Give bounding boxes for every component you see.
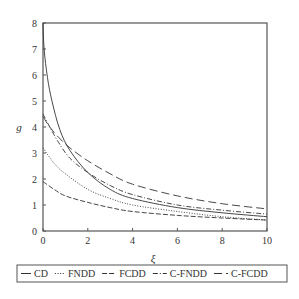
series-c-fcdd (43, 117, 267, 209)
x-tick-label: 0 (41, 235, 46, 246)
series-layer (43, 23, 267, 220)
x-tick-label: 10 (262, 235, 272, 246)
y-tick-label: 0 (32, 226, 37, 237)
legend-label: C-FNDD (170, 268, 207, 279)
series-cd (43, 23, 267, 217)
y-tick-label: 1 (32, 200, 37, 211)
legend-label: C-FCDD (231, 268, 268, 279)
series-fndd (43, 148, 267, 220)
chart-canvas: 0246810 012345678 ξ g CDFNDDFCDDC-FNDDC-… (0, 0, 299, 299)
y-tick-label: 7 (32, 44, 37, 55)
x-tick-label: 8 (220, 235, 225, 246)
legend-label: FNDD (68, 268, 95, 279)
legend-label: FCDD (119, 268, 146, 279)
x-tick-label: 4 (130, 235, 135, 246)
y-tick-label: 5 (32, 96, 37, 107)
legend: CDFNDDFCDDC-FNDDC-FCDD (17, 265, 287, 282)
x-tick-label: 2 (85, 235, 90, 246)
line-chart: 0246810 012345678 ξ g CDFNDDFCDDC-FNDDC-… (0, 0, 299, 299)
x-tick-label: 6 (175, 235, 180, 246)
y-tick-label: 6 (32, 70, 37, 81)
x-axis-label: ξ (151, 252, 156, 265)
y-axis-label: g (16, 121, 22, 133)
y-tick-label: 3 (32, 148, 37, 159)
y-tick-label: 4 (32, 122, 37, 133)
legend-label: CD (34, 268, 48, 279)
y-tick-label: 2 (32, 174, 37, 185)
y-tick-label: 8 (32, 18, 37, 29)
